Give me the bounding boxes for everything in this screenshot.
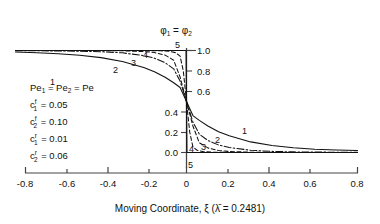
curve-label-2-upper: 2 bbox=[113, 65, 118, 75]
curve-labels-upper: 1 2 3 4 5 bbox=[50, 40, 180, 87]
curve-label-5-upper: 5 bbox=[175, 40, 180, 50]
x-tick-label: 0 bbox=[184, 178, 189, 189]
x-axis: -0.8 -0.6 -0.4 -0.2 0 0.2 0.4 0.6 0.8 bbox=[17, 167, 364, 189]
y-tick-label: 0.0 bbox=[165, 147, 178, 158]
legend-line-pe: Pe1 = Pe2 = Pe bbox=[30, 82, 94, 94]
curve-label-3-upper: 3 bbox=[131, 58, 136, 68]
x-tick-label: 0.6 bbox=[303, 178, 316, 189]
y-tick-label: 0.8 bbox=[197, 66, 210, 77]
legend-line-c1r: cr1 = 0.01 bbox=[30, 132, 68, 146]
x-tick-label: 0.4 bbox=[262, 178, 275, 189]
legend-line-c1f: cf1 = 0.05 bbox=[30, 98, 68, 112]
y-tick-label: 0.4 bbox=[165, 107, 178, 118]
y-axis-title: φ1 = φ2 bbox=[160, 25, 192, 37]
svg-text:φ1 = φ2: φ1 = φ2 bbox=[160, 25, 192, 37]
curve-label-1-lower: 1 bbox=[242, 126, 247, 136]
x-axis-title: Moving Coordinate, ξ (λ̄ = 0.2481) bbox=[115, 203, 265, 215]
x-tick-label: 0.2 bbox=[221, 178, 234, 189]
y-tick-label: 0.6 bbox=[197, 86, 210, 97]
curve-labels-lower: 1 2 3 4 5 bbox=[188, 126, 247, 170]
x-tick-label: -0.4 bbox=[100, 178, 116, 189]
x-tick-label: -0.6 bbox=[59, 178, 75, 189]
svg-text:Moving Coordinate, ξ (λ̄ = 0.2: Moving Coordinate, ξ (λ̄ = 0.2481) bbox=[115, 203, 265, 215]
legend-line-c2r: cr2 = 0.06 bbox=[30, 149, 68, 163]
y-tick-label: 1.0 bbox=[197, 45, 210, 56]
legend-line-c2f: cf2 = 0.10 bbox=[30, 115, 68, 129]
curve-label-4-upper: 4 bbox=[143, 50, 148, 60]
curve-label-5-lower: 5 bbox=[188, 160, 193, 170]
curve-label-2-lower: 2 bbox=[215, 135, 220, 145]
curve-label-4-lower: 4 bbox=[189, 144, 194, 154]
chart-canvas: φ1 = φ2 1.0 0.8 0.6 bbox=[0, 0, 380, 224]
x-tick-labels: -0.8 -0.6 -0.4 -0.2 0 0.2 0.4 0.6 0.8 bbox=[17, 178, 364, 189]
parameter-legend: Pe1 = Pe2 = Pe cf1 = 0.05 cf2 = 0.10 cr1… bbox=[30, 82, 94, 163]
curve-label-3-lower: 3 bbox=[201, 142, 206, 152]
x-axis-title-rest: = 0.2481) bbox=[220, 203, 265, 214]
x-tick-label: -0.8 bbox=[17, 178, 33, 189]
x-axis-title-main: Moving Coordinate, ξ ( bbox=[115, 203, 216, 215]
figure-container: φ1 = φ2 1.0 0.8 0.6 bbox=[0, 0, 380, 224]
x-tick-label: -0.2 bbox=[141, 178, 157, 189]
y-tick-label: 0.2 bbox=[165, 127, 178, 138]
x-tick-label: 0.8 bbox=[350, 178, 363, 189]
